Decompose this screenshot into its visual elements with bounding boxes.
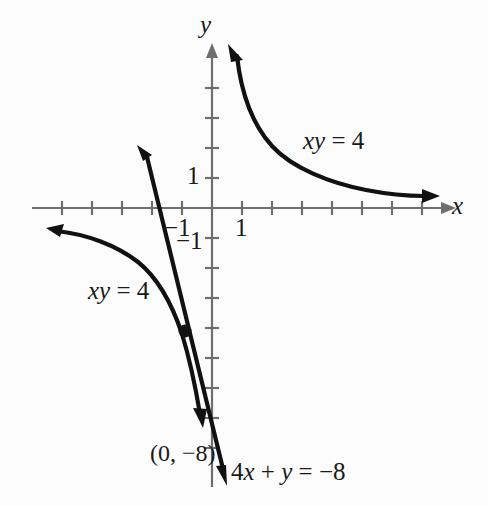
hyperbola-lower-label-var2: y [99,277,110,304]
hyperbola-upper-label-var1: x [303,127,314,154]
x-axis-tick-label-1: 1 [235,215,248,240]
hyperbola-upper-label-var2: y [314,127,325,154]
line-equation-label: 4x + y = −8 [231,459,346,484]
hyperbola-lower-label-op: = [110,277,137,304]
x-axis [32,201,456,215]
hyperbola-upper-label-num: 4 [352,127,365,154]
hyperbola-lower-label-num: 4 [137,277,150,304]
x-axis-label: x [452,193,463,218]
line-equation-plus: + [255,458,282,485]
coordinate-plane-svg [0,0,488,505]
intersection-point-marker [179,325,192,338]
hyperbola-lower-label-var1: x [88,277,99,304]
hyperbola-upper-label-op: = [325,127,352,154]
line-equation-var2: y [281,458,292,485]
graph-figure: y x 1 1 −1 −1 xy = 4 xy = 4 (0, −8) 4x +… [0,0,488,505]
intersection-point-label: (0, −8) [150,441,216,465]
hyperbola-upper-label: xy = 4 [303,128,364,153]
hyperbola-lower-label: xy = 4 [88,278,149,303]
y-axis-label: y [200,12,211,37]
y-axis-tick-label-minus-1: −1 [176,228,203,253]
y-axis-tick-label-1: 1 [187,163,200,188]
line-equation-op: = [292,458,319,485]
line-equation-num: −8 [319,458,346,485]
line-equation-var1: x [244,458,255,485]
line-4x-plus-y-equals-minus-8 [137,145,227,486]
line-equation-coef: 4 [231,458,244,485]
hyperbola-branch-upper-right [228,44,440,203]
